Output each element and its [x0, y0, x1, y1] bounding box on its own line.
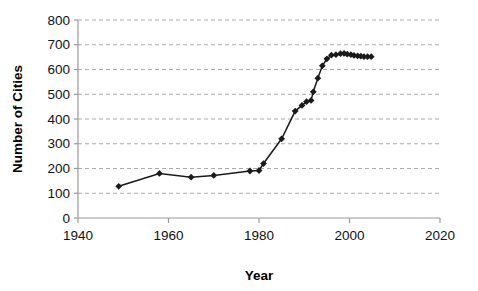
- chart-container: 0100200300400500600700800 19401960198020…: [0, 0, 478, 291]
- y-tick-label-100: 100: [47, 186, 70, 201]
- y-axis-title: Number of Cities: [10, 65, 25, 173]
- x-tick-label-1960: 1960: [153, 228, 183, 243]
- y-tick-label-200: 200: [47, 161, 70, 176]
- x-tick-label-2020: 2020: [425, 228, 455, 243]
- y-tick-label-500: 500: [47, 87, 70, 102]
- x-tick-label-2000: 2000: [334, 228, 364, 243]
- y-tick-label-800: 800: [47, 13, 70, 28]
- x-tick-label-1980: 1980: [244, 228, 274, 243]
- y-tick-label-600: 600: [47, 62, 70, 77]
- y-tick-label-0: 0: [62, 211, 70, 226]
- x-axis-title: Year: [245, 268, 274, 283]
- y-tick-label-300: 300: [47, 136, 70, 151]
- y-tick-label-700: 700: [47, 37, 70, 52]
- chart-background: [0, 0, 478, 291]
- y-tick-label-400: 400: [47, 112, 70, 127]
- x-tick-label-1940: 1940: [63, 228, 93, 243]
- y-axis-tick-labels: 0100200300400500600700800: [47, 13, 70, 226]
- line-chart: 0100200300400500600700800 19401960198020…: [0, 0, 478, 291]
